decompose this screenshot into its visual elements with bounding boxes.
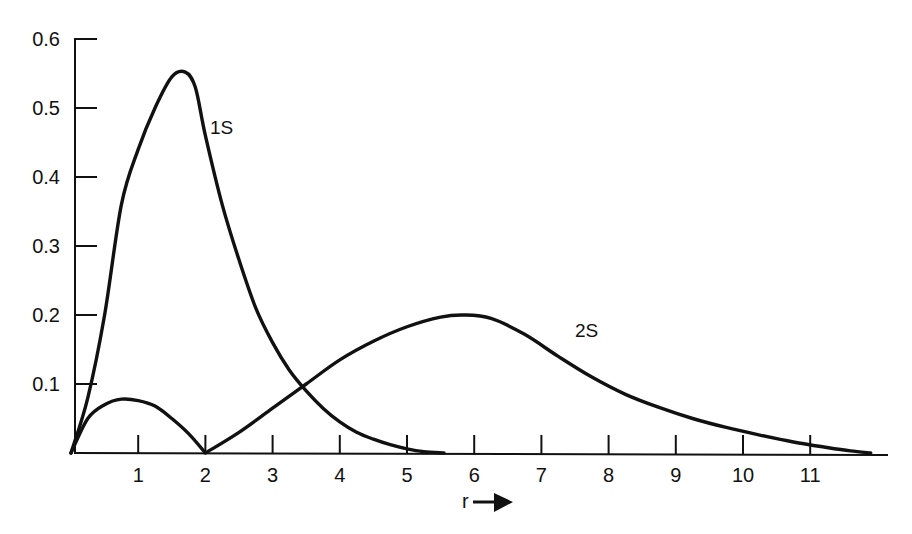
y-tick-label: 0.6 [32, 28, 60, 50]
curve-label-2s: 2S [575, 320, 598, 341]
x-ticks: 1234567891011 [133, 435, 821, 486]
x-tick-label: 1 [133, 464, 144, 486]
y-ticks: 0.10.20.30.40.50.6 [32, 28, 97, 395]
y-tick-label: 0.4 [32, 166, 60, 188]
curve-1s [71, 71, 444, 453]
x-axis-label: r [462, 490, 469, 512]
x-tick-label: 2 [200, 464, 211, 486]
curve-2s [71, 315, 871, 453]
y-tick-label: 0.5 [32, 97, 60, 119]
x-axis [74, 453, 888, 455]
x-tick-label: 10 [732, 464, 754, 486]
y-tick-label: 0.1 [32, 373, 60, 395]
x-tick-label: 5 [401, 464, 412, 486]
x-tick-label: 7 [536, 464, 547, 486]
right-arrow-icon [473, 493, 513, 512]
x-tick-label: 9 [670, 464, 681, 486]
x-tick-label: 6 [469, 464, 480, 486]
x-tick-label: 8 [603, 464, 614, 486]
y-tick-label: 0.3 [32, 235, 60, 257]
x-tick-label: 3 [267, 464, 278, 486]
x-tick-label: 4 [334, 464, 345, 486]
x-tick-label: 11 [800, 464, 821, 486]
radial-distribution-chart: 0.10.20.30.40.50.6 1234567891011 1S 2S r [0, 0, 912, 534]
curve-label-1s: 1S [210, 117, 233, 138]
y-tick-label: 0.2 [32, 304, 60, 326]
